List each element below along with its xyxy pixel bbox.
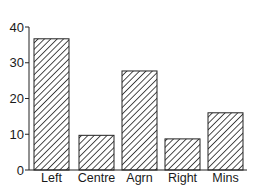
y-ticks: 010203040 bbox=[10, 20, 29, 178]
bar-agrn bbox=[122, 71, 157, 170]
y-tick-label: 20 bbox=[10, 91, 24, 106]
x-label-left: Left bbox=[41, 171, 62, 185]
bar-chart: 010203040 LeftCentreAgrnRightMins bbox=[0, 0, 267, 185]
y-tick-label: 10 bbox=[10, 127, 24, 142]
x-label-centre: Centre bbox=[78, 171, 116, 185]
bar-centre bbox=[79, 135, 114, 170]
x-label-mins: Mins bbox=[212, 171, 238, 185]
bars-group bbox=[34, 39, 243, 170]
bar-mins bbox=[208, 113, 243, 170]
y-tick-label: 30 bbox=[10, 55, 24, 70]
bar-right bbox=[165, 139, 200, 170]
x-label-agrn: Agrn bbox=[126, 171, 152, 185]
x-label-right: Right bbox=[168, 171, 198, 185]
bar-left bbox=[34, 39, 69, 170]
y-tick-label: 40 bbox=[10, 20, 24, 35]
x-labels: LeftCentreAgrnRightMins bbox=[41, 171, 239, 185]
y-tick-label: 0 bbox=[17, 163, 24, 178]
